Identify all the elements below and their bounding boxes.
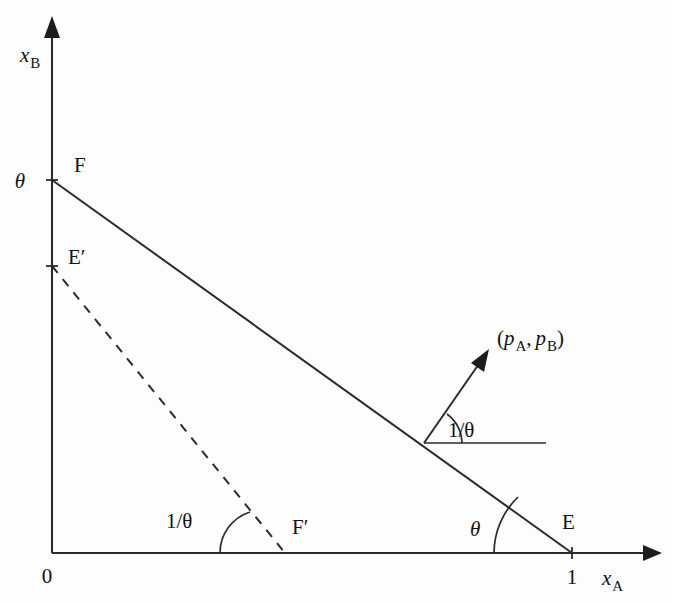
point-label-E: E [562, 510, 575, 534]
price-vector-close-paren: ) [557, 326, 564, 350]
x-axis-label-group: xA [601, 566, 623, 594]
point-label-E-prime: E′ [68, 245, 85, 269]
x-axis-arrowhead [643, 545, 662, 561]
price-vector-arrowhead [471, 349, 489, 372]
price-vector-comma: , [526, 326, 531, 350]
point-label-F-prime: F′ [292, 515, 308, 539]
x-intercept-one-label: 1 [567, 565, 578, 589]
x-axis-label-subscript: A [612, 578, 623, 594]
origin-label: 0 [42, 564, 53, 588]
angle-label-one-over-theta-at-vector: 1/θ [448, 418, 474, 442]
budget-line-EF [52, 180, 572, 553]
y-axis-arrowhead [44, 16, 60, 38]
price-vector-pb: p [534, 326, 547, 350]
price-vector-pb-subscript: B [547, 338, 557, 354]
y-axis-label-group: xB [19, 43, 40, 71]
price-vector-label: (pA,pB) [497, 326, 564, 354]
y-axis-label-subscript: B [30, 55, 40, 71]
price-vector-open-paren: ( [497, 326, 504, 350]
angle-label-one-over-theta-at-Fprime: 1/θ [166, 509, 192, 533]
price-vector-pa-subscript: A [516, 338, 527, 354]
y-axis-label-main: x [19, 43, 30, 67]
diagram-canvas: xB xA θ 0 1 F E′ F′ E θ 1/θ 1/θ (pA,pB) [0, 0, 673, 605]
point-label-F: F [74, 153, 86, 177]
angle-label-theta-at-E: θ [470, 517, 480, 541]
economics-budget-line-figure: xB xA θ 0 1 F E′ F′ E θ 1/θ 1/θ (pA,pB) [0, 0, 673, 605]
x-axis-label-main: x [601, 566, 612, 590]
angle-arc-one-over-theta-at-Fprime [220, 512, 250, 553]
y-intercept-theta-label: θ [15, 169, 25, 193]
price-vector-pa: p [502, 326, 515, 350]
